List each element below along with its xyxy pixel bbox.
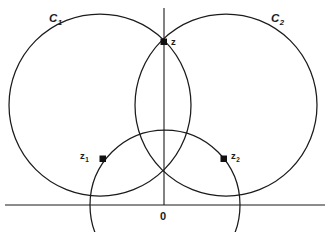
point-marker-z1 [100,156,107,163]
label-c1-subscript: 1 [58,18,63,27]
label-z2: z2 [231,151,240,161]
label-c2: C2 [271,13,284,25]
label-z-text: z [171,36,176,47]
label-z: z [171,37,176,47]
label-c2-text: C [271,12,280,24]
label-c1-text: C [49,12,58,24]
label-z1: z1 [80,151,89,161]
label-c1: C1 [49,13,62,25]
label-z2-subscript: 2 [236,156,240,163]
label-origin-text: 0 [160,210,166,222]
label-origin: 0 [160,211,166,222]
label-c2-subscript: 2 [280,18,285,27]
label-z1-subscript: 1 [85,156,89,163]
point-marker-z2 [221,156,228,163]
geometry-figure: C1 C2 z z1 z2 0 [0,0,330,232]
point-marker-z [161,39,168,46]
figure-canvas [0,0,330,232]
